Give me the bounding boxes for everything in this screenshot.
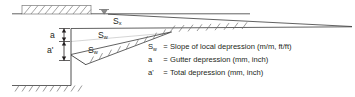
legend-symbol: a <box>148 54 161 67</box>
legend-row: a' = Total depression (mm, inch) <box>148 67 353 80</box>
total-depression-dimension: a' <box>47 45 53 55</box>
legend-equals: = <box>161 67 170 79</box>
legend-text: Total depression (mm, inch) <box>170 67 263 79</box>
legend-text: Gutter depression (mm, inch) <box>170 54 268 66</box>
legend-row: a = Gutter depression (mm, inch) <box>148 54 353 67</box>
cross-slope-line <box>108 14 352 26</box>
gutter-depression-dimension: a <box>50 30 55 40</box>
curb-fillet-line <box>71 55 86 65</box>
cross-slope-label-top: Sx <box>113 16 122 26</box>
legend-equals: = <box>161 41 170 53</box>
dimension-arrow-a-prime <box>59 42 70 61</box>
legend-equals: = <box>161 54 170 66</box>
legend-symbol: Sw <box>148 41 161 54</box>
depression-upper-line <box>71 27 352 29</box>
legend-row: Sw = Slope of local depression (m/m, ft/… <box>148 41 353 54</box>
legend-text: Slope of local depression (m/m, ft/ft) <box>170 41 292 53</box>
pavement-band <box>22 6 91 15</box>
legend-symbol: a' <box>148 67 161 80</box>
bottom-ground <box>12 86 82 92</box>
slope-label-lower: Sw <box>88 45 98 55</box>
slope-label-middle: Sw <box>98 30 108 40</box>
dimension-arrow-a <box>59 29 70 42</box>
legend: Sw = Slope of local depression (m/m, ft/… <box>148 41 353 79</box>
